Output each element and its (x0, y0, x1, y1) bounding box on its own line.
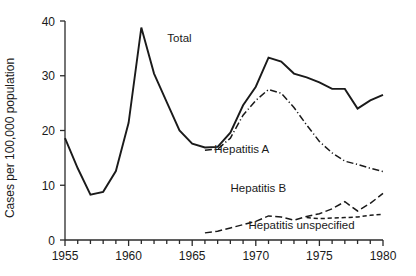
series-label-2: Hepatitis B (231, 182, 287, 194)
y-axis-tick-label: 40 (42, 15, 56, 29)
x-axis-tick-label: 1970 (242, 249, 269, 263)
x-axis-tick-label: 1965 (179, 249, 206, 263)
x-axis-tick-label: 1960 (115, 249, 142, 263)
y-axis-tick-label: 30 (42, 69, 56, 83)
series-label-1: Hepatitis A (214, 143, 269, 155)
x-axis-tick-label: 1975 (306, 249, 333, 263)
y-axis-tick-label: 20 (42, 124, 56, 138)
y-axis-title: Cases per 100,000 population (3, 58, 17, 218)
x-axis-tick-label: 1980 (370, 249, 397, 263)
y-axis-tick-label: 10 (42, 179, 56, 193)
hepatitis-incidence-line-chart: 010203040 195519601965197019751980 Total… (0, 0, 416, 276)
y-axis-tick-label: 0 (48, 234, 55, 248)
chart-background (0, 0, 416, 276)
x-axis-tick-label: 1955 (52, 249, 79, 263)
chart-canvas: 010203040 195519601965197019751980 Total… (0, 0, 416, 276)
series-label-3: Hepatitis unspecified (249, 219, 355, 231)
series-label-0: Total (167, 32, 191, 44)
